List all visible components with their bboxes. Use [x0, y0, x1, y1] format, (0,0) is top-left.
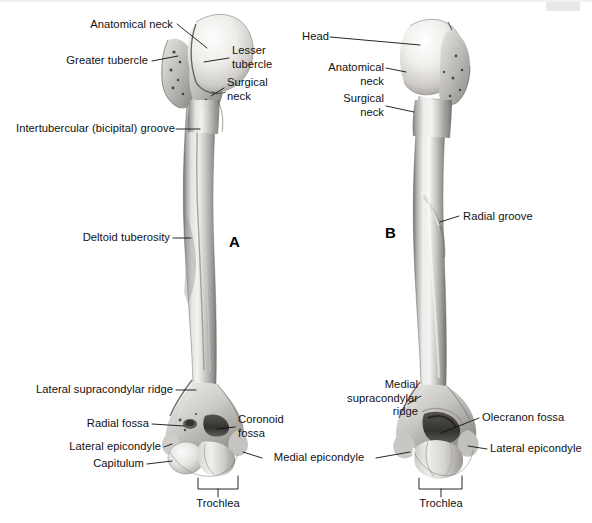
label-intertubercular-groove: Intertubercular (bicipital) groove [16, 122, 172, 136]
label-anatomical-neck-a: Anatomical neck [75, 18, 173, 32]
leader-surgical-neck-a [211, 88, 224, 96]
label-radial-fossa: Radial fossa [80, 417, 149, 431]
leader-capitulum [147, 461, 172, 464]
label-coronoid-fossa: Coronoid fossa [238, 413, 298, 440]
label-capitulum: Capitulum [85, 457, 144, 471]
label-lesser-tubercle: Lesser tubercle [232, 44, 294, 71]
label-surgical-neck-b: Surgical neck [322, 92, 384, 119]
label-surgical-neck-a: Surgical neck [227, 76, 287, 103]
leader-surgical-neck-b [386, 106, 414, 112]
leader-radial-groove [440, 216, 459, 222]
label-head: Head [302, 30, 342, 44]
leader-lesser-tubercle [204, 58, 229, 62]
leader-medial-epicondyle-left [243, 452, 262, 458]
leader-trochlea-a-bracket [198, 476, 238, 489]
leader-coronoid-fossa [217, 427, 235, 429]
leader-anatomical-neck-a [177, 24, 207, 48]
label-anatomical-neck-b: Anatomical neck [316, 61, 384, 88]
leader-greater-tubercle [152, 56, 178, 61]
leader-anatomical-neck-b [386, 68, 406, 72]
leader-trochlea-b-bracket [419, 476, 462, 489]
label-trochlea-b: Trochlea [409, 497, 473, 511]
label-medial-epicondyle: Medial epicondyle [266, 451, 372, 465]
label-medial-supracondylar-ridge: Medial supracondylar ridge [336, 378, 418, 419]
label-radial-groove: Radial groove [463, 210, 551, 224]
label-lateral-epicondyle-a: Lateral epicondyle [56, 440, 161, 454]
label-lateral-epicondyle-b: Lateral epicondyle [490, 442, 592, 456]
panel-letter-a: A [229, 233, 240, 250]
label-lateral-supracondylar-ridge: Lateral supracondylar ridge [36, 383, 173, 397]
label-olecranon-fossa: Olecranon fossa [482, 411, 582, 425]
humerus-figure: Anatomical neck Greater tubercle Lesser … [0, 0, 592, 523]
leader-head [330, 37, 420, 45]
label-greater-tubercle: Greater tubercle [48, 54, 148, 68]
leader-medial-epicondyle-right [376, 452, 410, 458]
panel-letter-b: B [385, 224, 396, 241]
label-trochlea-a: Trochlea [186, 497, 250, 511]
leader-lateral-epicondyle-a [164, 444, 172, 447]
leader-lateral-epicondyle-b [468, 446, 487, 449]
label-deltoid-tuberosity: Deltoid tuberosity [76, 231, 170, 245]
leader-radial-fossa [152, 424, 184, 426]
leader-olecranon-fossa [441, 418, 479, 433]
